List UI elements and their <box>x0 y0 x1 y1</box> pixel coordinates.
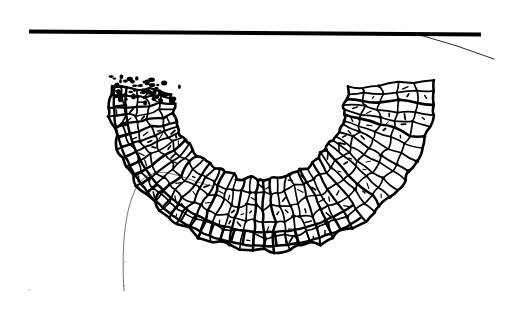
mesh-knot <box>196 236 200 240</box>
tip-knot-blob <box>130 80 135 84</box>
illustration-canvas <box>0 0 519 313</box>
mesh-texture-tick <box>153 192 154 197</box>
mesh-knot <box>245 203 249 205</box>
mesh-texture-tick <box>205 203 210 204</box>
mesh-knot <box>347 195 349 198</box>
mesh-knot <box>176 125 178 129</box>
tip-knot-blob <box>139 84 143 87</box>
tip-knot-blob <box>118 96 123 102</box>
mesh-knot <box>377 205 380 207</box>
mesh-knot <box>231 189 235 191</box>
mesh-knot <box>279 204 281 208</box>
mesh-knot <box>181 196 183 198</box>
mesh-knot <box>304 181 308 184</box>
mesh-knot <box>168 217 171 219</box>
mesh-knot <box>365 175 369 178</box>
mesh-knot <box>162 124 164 128</box>
mesh-knot <box>397 98 401 102</box>
mesh-knot <box>167 137 170 139</box>
mesh-knot <box>390 136 392 138</box>
mesh-texture-tick <box>383 129 385 131</box>
tip-knot-blob <box>158 91 162 96</box>
mesh-texture-tick <box>288 180 292 181</box>
mesh-texture-tick <box>116 110 117 115</box>
mesh-knot <box>158 209 160 212</box>
mesh-knot <box>154 134 156 138</box>
mesh-knot <box>188 160 191 163</box>
mesh-knot <box>254 191 258 194</box>
mesh-knot <box>298 215 302 218</box>
mesh-knot <box>346 97 349 101</box>
mesh-knot <box>288 205 292 207</box>
mesh-knot <box>363 202 366 205</box>
tip-knot-blob <box>145 89 151 94</box>
mesh-knot <box>388 195 392 199</box>
tip-knot-blob <box>117 90 122 95</box>
tip-knot-blob <box>154 95 159 99</box>
mesh-knot <box>342 155 344 157</box>
figure-root: A band of irregular open crochet netting… <box>0 0 519 313</box>
tip-knot-blob <box>131 94 136 100</box>
mesh-knot <box>358 116 361 120</box>
mesh-knot <box>161 117 166 119</box>
mesh-knot <box>162 176 166 179</box>
mesh-knot <box>379 124 382 126</box>
mesh-knot <box>324 148 328 152</box>
mesh-knot <box>392 170 394 172</box>
mesh-knot <box>291 215 296 218</box>
mesh-knot <box>378 116 382 119</box>
mesh-knot <box>191 148 194 152</box>
mesh-knot <box>256 179 260 181</box>
mesh-knot <box>319 208 323 211</box>
ink-speck <box>28 289 30 291</box>
mesh-knot <box>381 177 385 180</box>
mesh-knot <box>224 171 226 173</box>
mesh-texture-tick <box>339 143 345 144</box>
tip-knot-blob <box>132 85 137 88</box>
mesh-knot <box>362 91 365 95</box>
mesh-knot <box>329 166 333 168</box>
mesh-knot <box>228 243 232 247</box>
tip-knot-blob <box>123 80 128 83</box>
mesh-knot <box>142 96 146 99</box>
mesh-knot <box>208 162 212 164</box>
mesh-knot <box>407 169 411 173</box>
mesh-texture-tick <box>404 114 405 119</box>
mesh-knot <box>364 105 367 107</box>
mesh-knot <box>319 151 322 154</box>
mesh-knot <box>125 165 127 167</box>
mesh-knot <box>213 167 216 169</box>
tip-knot-blob <box>119 79 122 83</box>
mesh-knot <box>214 193 218 197</box>
mesh-texture-tick <box>349 158 352 159</box>
mesh-knot <box>233 172 235 175</box>
mesh-knot <box>149 152 152 155</box>
mesh-knot <box>423 135 427 138</box>
mesh-knot <box>206 194 210 197</box>
mesh-texture-tick <box>338 171 341 172</box>
mesh-texture-tick <box>176 135 177 137</box>
mesh-knot <box>236 206 240 208</box>
mesh-knot <box>262 180 265 182</box>
tip-knot-blob <box>135 76 139 80</box>
tip-knot-blob <box>161 81 167 86</box>
tip-knot-blob <box>115 83 120 87</box>
mesh-texture-tick <box>327 153 328 159</box>
mesh-knot <box>411 120 415 123</box>
mesh-texture-tick <box>329 197 330 201</box>
mesh-knot <box>394 164 399 166</box>
mesh-knot <box>355 183 359 185</box>
mesh-knot <box>416 102 420 104</box>
mesh-knot <box>230 203 233 207</box>
tip-knot-blob <box>109 75 114 78</box>
mesh-knot <box>134 115 137 117</box>
mesh-knot <box>214 214 216 216</box>
mesh-texture-tick <box>157 131 161 132</box>
tip-knot-blob <box>156 84 159 87</box>
mesh-knot <box>252 249 255 252</box>
tip-knot-blob <box>125 98 128 101</box>
tip-knot-blob <box>124 93 127 97</box>
mesh-knot <box>194 217 197 220</box>
tip-knot-blob <box>143 100 147 105</box>
tip-knot-blob <box>178 85 181 89</box>
